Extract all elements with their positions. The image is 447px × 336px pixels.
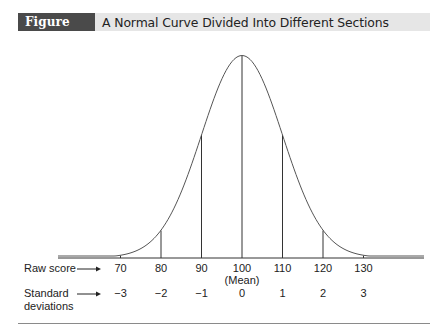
sd-tick: 0	[222, 287, 262, 299]
sd-label-line2: deviations	[24, 300, 74, 312]
normal-curve	[58, 56, 424, 257]
raw-score-arrow-icon	[77, 267, 101, 272]
raw-score-tick: 100	[222, 262, 262, 274]
raw-score-tick: 110	[263, 262, 303, 274]
raw-score-tick: 80	[141, 262, 181, 274]
sd-division-lines	[121, 56, 364, 258]
sd-tick: −2	[141, 287, 181, 299]
raw-score-tick: 90	[182, 262, 222, 274]
sd-tick: −1	[182, 287, 222, 299]
sd-tick: 1	[263, 287, 303, 299]
mean-annotation: (Mean)	[222, 274, 262, 286]
sd-tick: 3	[344, 287, 384, 299]
sd-tick: −3	[101, 287, 141, 299]
sd-tick: 2	[303, 287, 343, 299]
raw-score-tick: 70	[101, 262, 141, 274]
raw-score-tick: 130	[344, 262, 384, 274]
sd-label-line1: Standard	[24, 287, 69, 299]
raw-score-label: Raw score	[24, 262, 76, 274]
bottom-rule	[18, 323, 430, 324]
raw-score-tick: 120	[303, 262, 343, 274]
sd-arrow-icon	[77, 292, 101, 297]
